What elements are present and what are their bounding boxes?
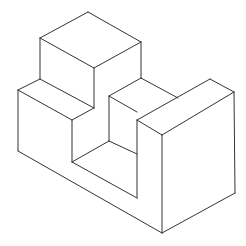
edge-line <box>162 92 234 135</box>
edge-line <box>210 79 234 92</box>
edge-line <box>40 12 88 38</box>
isometric-part-drawing <box>0 0 246 246</box>
edge-line <box>18 90 72 120</box>
edge-line <box>234 92 235 193</box>
edge-line <box>162 193 235 233</box>
edge-line <box>18 151 162 233</box>
edge-line <box>137 120 162 135</box>
edge-line <box>109 78 141 96</box>
edge-line <box>40 38 94 68</box>
edge-line <box>137 79 210 120</box>
edge-line <box>109 96 137 112</box>
edge-line <box>141 78 178 98</box>
edge-line <box>72 108 94 120</box>
edge-line <box>94 42 141 68</box>
edge-line <box>72 162 137 198</box>
edge-line <box>109 141 137 154</box>
edge-line <box>72 141 109 162</box>
edge-line <box>18 79 40 90</box>
edge-line <box>88 12 141 42</box>
edge-line <box>40 79 94 108</box>
